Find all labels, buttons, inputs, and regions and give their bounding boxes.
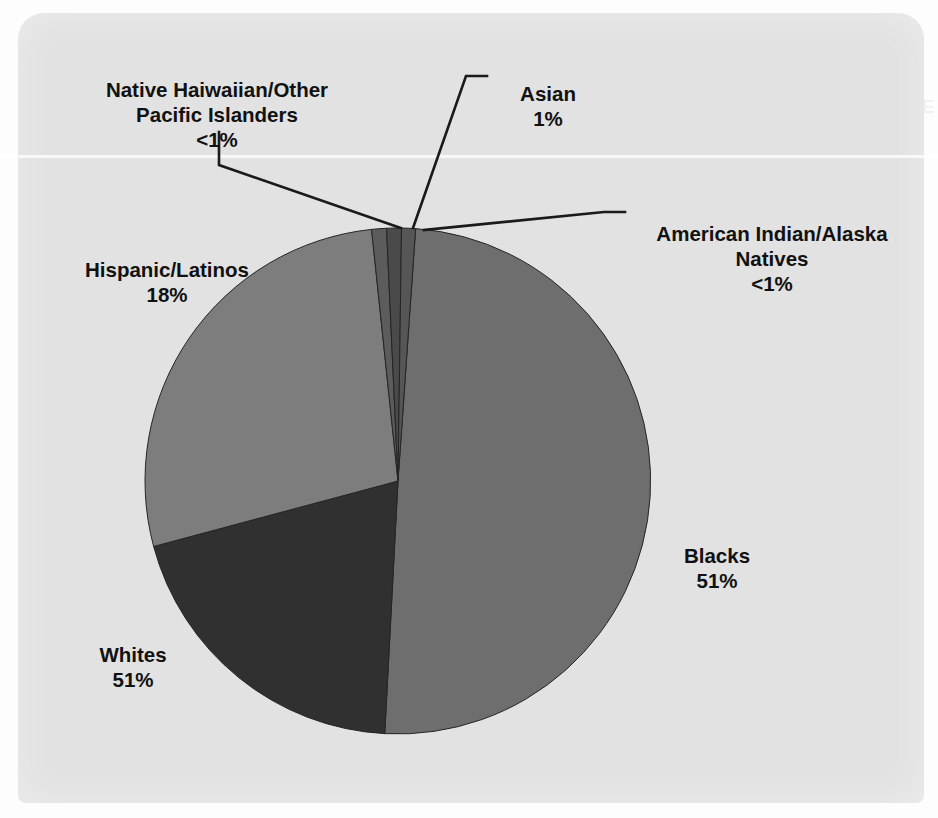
pie-slice-blacks[interactable] [385,229,651,734]
slice-label-blacks-pct: 51% [642,568,792,593]
slice-label-asian: Asian 1% [488,56,608,156]
slice-label-asian-name: Asian [520,82,576,105]
leader-line-asian [413,76,487,228]
slice-label-hispanic-latinos-name: Hispanic/Latinos [85,258,249,281]
slice-label-whites-pct: 51% [58,667,208,692]
page-canvas: CLOSE THE DISPARITY IN HEALTH CARE SOME … [0,0,938,818]
slice-label-native-hawaiian: Native Haiwaiian/Other Pacific Islanders… [72,52,362,177]
slice-label-native-hawaiian-name: Native Haiwaiian/Other Pacific Islanders [106,78,328,126]
slice-label-whites-name: Whites [99,643,166,666]
slice-label-blacks: Blacks 51% [642,518,792,618]
slice-label-american-indian-pct: <1% [632,271,912,296]
slice-label-american-indian: American Indian/Alaska Natives <1% [632,196,912,321]
slice-label-whites: Whites 51% [58,617,208,717]
slice-label-hispanic-latinos-pct: 18% [44,282,290,307]
leader-line-aian [424,212,625,230]
slice-label-blacks-name: Blacks [684,544,750,567]
slice-label-native-hawaiian-pct: <1% [72,127,362,152]
slice-label-american-indian-name: American Indian/Alaska Natives [656,222,887,270]
slice-label-hispanic-latinos: Hispanic/Latinos 18% [44,232,290,332]
slice-label-asian-pct: 1% [488,106,608,131]
